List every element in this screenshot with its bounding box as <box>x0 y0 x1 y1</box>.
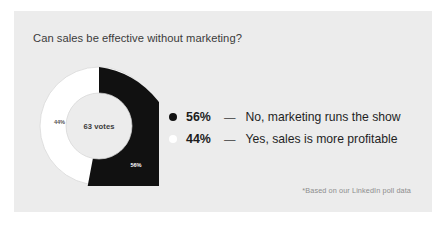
legend-dash: — <box>224 111 236 123</box>
chart-footnote: *Based on our LinkedIn poll data <box>302 186 411 195</box>
legend-item-yes[interactable]: 44% — Yes, sales is more profitable <box>169 128 401 150</box>
legend-percent-no: 56% <box>186 110 224 124</box>
legend-percent-yes: 44% <box>186 132 224 146</box>
legend-item-no[interactable]: 56% — No, marketing runs the show <box>169 106 401 128</box>
bullet-dot-light-icon <box>169 135 177 143</box>
donut-chart-svg: 44% 56% <box>39 66 159 186</box>
bullet-dot-dark-icon <box>169 113 177 121</box>
poll-card: Can sales be effective without marketing… <box>14 11 432 212</box>
page-title: Can sales be effective without marketing… <box>33 32 242 44</box>
donut-label-no: 56% <box>130 162 141 168</box>
legend-label-no: No, marketing runs the show <box>246 110 401 124</box>
legend-label-yes: Yes, sales is more profitable <box>246 132 398 146</box>
legend-dash: — <box>224 133 236 145</box>
donut-hole <box>66 93 132 159</box>
chart-legend: 56% — No, marketing runs the show 44% — … <box>169 106 401 150</box>
donut-chart: 44% 56% 63 votes <box>39 66 159 186</box>
donut-label-yes: 44% <box>54 119 65 125</box>
